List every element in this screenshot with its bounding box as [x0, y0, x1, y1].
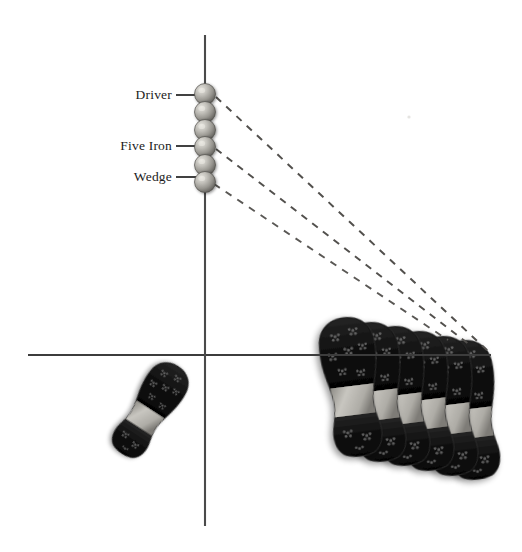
golf-ball-stack: [195, 84, 216, 193]
front-foot-print: [104, 355, 196, 465]
label-leader-lines: [176, 95, 196, 177]
diagram-canvas: [0, 0, 522, 552]
back-foot-print-cluster: [316, 314, 507, 483]
label-five-iron: Five Iron: [0, 138, 172, 154]
golf-stance-diagram: Driver Five Iron Wedge: [0, 0, 522, 552]
paper-speck: [407, 115, 410, 118]
five-iron-path: [216, 149, 470, 345]
ball-flight-trajectories: [214, 97, 489, 352]
label-driver: Driver: [0, 87, 172, 103]
label-wedge: Wedge: [0, 169, 172, 185]
wedge-path: [214, 184, 448, 340]
golf-ball-6: [195, 172, 216, 193]
front-foot-print: [104, 355, 196, 465]
driver-path: [216, 97, 489, 352]
